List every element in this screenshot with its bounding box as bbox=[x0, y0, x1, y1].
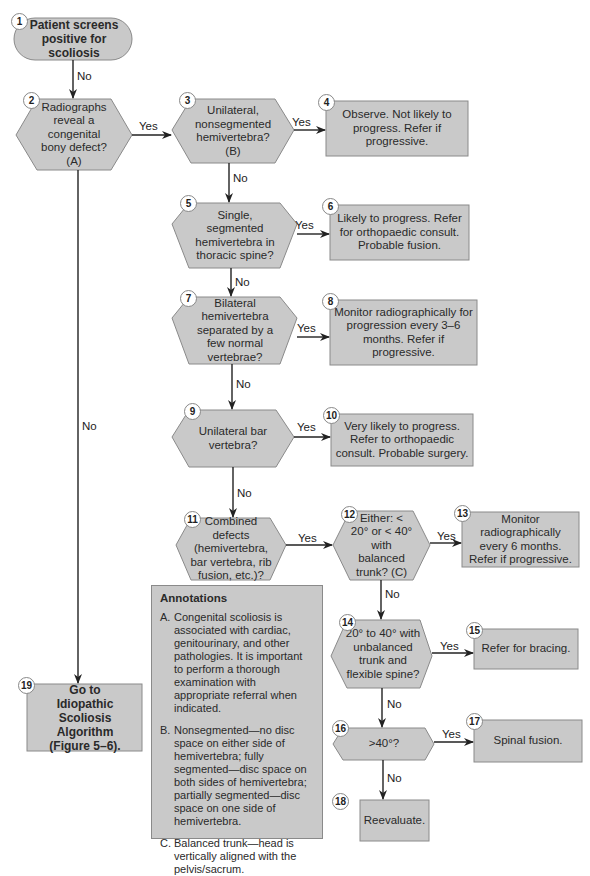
node-18-number: 18 bbox=[332, 793, 349, 810]
node-17-number: 17 bbox=[466, 713, 483, 730]
node-7-number: 7 bbox=[180, 290, 197, 307]
node-19-text: Go to Idiopathic Scoliosis Algorithm (Fi… bbox=[40, 684, 130, 751]
node-16-number: 16 bbox=[332, 720, 349, 737]
node-3-text: Unilateral, nonsegmented hemivertebra? (… bbox=[192, 99, 274, 163]
node-16-text: >40°? bbox=[343, 728, 425, 760]
edge-label-16-17: Yes bbox=[442, 728, 461, 740]
annotation-key: A. bbox=[160, 611, 174, 715]
node-12-number: 12 bbox=[341, 506, 358, 523]
node-5-number: 5 bbox=[180, 195, 197, 212]
node-10-text: Very likely to progress. Refer to orthop… bbox=[334, 414, 470, 466]
node-13-text: Monitor radiographically every 6 months.… bbox=[465, 512, 576, 567]
node-19-number: 19 bbox=[18, 677, 35, 694]
annotation-text: Balanced trunk—head is vertically aligne… bbox=[174, 837, 314, 876]
edge-label-2-3: Yes bbox=[139, 120, 158, 132]
edge-label-5-7: No bbox=[235, 276, 250, 288]
node-8-number: 8 bbox=[322, 293, 339, 310]
node-7-text: Bilateral hemivertebra separated by a fe… bbox=[188, 297, 282, 364]
node-2-number: 2 bbox=[23, 92, 40, 109]
node-5-text: Single, segmented hemivertebra in thorac… bbox=[190, 203, 280, 268]
node-15-number: 15 bbox=[466, 622, 483, 639]
edge-label-12-14: No bbox=[385, 588, 400, 600]
annotation-key: C. bbox=[160, 837, 174, 876]
node-9-text: Unilateral bar vertebra? bbox=[190, 410, 276, 467]
edge-label-7-8: Yes bbox=[297, 322, 316, 334]
node-17-text: Spinal fusion. bbox=[474, 720, 582, 762]
node-13-number: 13 bbox=[454, 505, 471, 522]
edge-label-11-12: Yes bbox=[298, 532, 317, 544]
edge-label-3-4: Yes bbox=[292, 116, 311, 128]
edge-label-14-15: Yes bbox=[440, 640, 459, 652]
annotation-a: A. Congenital scoliosis is associated wi… bbox=[160, 611, 314, 715]
node-14-text: 20° to 40° with unbalanced trunk and fle… bbox=[344, 620, 422, 688]
node-2-text: Radiographs reveal a congenital bony def… bbox=[40, 99, 108, 170]
annotation-key: B. bbox=[160, 724, 174, 828]
node-4-number: 4 bbox=[318, 94, 335, 111]
annotations-title: Annotations bbox=[160, 592, 314, 605]
node-6-text: Likely to progress. Refer for orthopaedi… bbox=[333, 205, 466, 260]
edge-label-2-19: No bbox=[82, 420, 97, 432]
node-9-number: 9 bbox=[184, 403, 201, 420]
edge-label-16-18: No bbox=[387, 772, 402, 784]
node-3-number: 3 bbox=[179, 92, 196, 109]
node-11-number: 11 bbox=[184, 511, 201, 528]
edge-label-9-11: No bbox=[237, 487, 252, 499]
annotation-c: C. Balanced trunk—head is vertically ali… bbox=[160, 837, 314, 876]
annotations-panel: Annotations A. Congenital scoliosis is a… bbox=[151, 585, 323, 839]
edge-label-7-9: No bbox=[236, 378, 251, 390]
annotation-text: Congenital scoliosis is associated with … bbox=[174, 611, 314, 715]
node-18-text: Reevaluate. bbox=[360, 800, 429, 841]
node-8-text: Monitor radiographically for progression… bbox=[333, 300, 474, 365]
edge-label-5-6: Yes bbox=[295, 219, 314, 231]
annotation-b: B. Nonsegmented—no disc space on either … bbox=[160, 724, 314, 828]
node-14-number: 14 bbox=[339, 614, 356, 631]
edge-label-9-10: Yes bbox=[297, 421, 316, 433]
node-15-text: Refer for bracing. bbox=[474, 629, 578, 669]
node-6-number: 6 bbox=[322, 198, 339, 215]
edge-label-3-5: No bbox=[233, 172, 248, 184]
node-1-number: 1 bbox=[11, 13, 28, 30]
edge-label-12-13: Yes bbox=[437, 530, 456, 542]
node-10-number: 10 bbox=[323, 407, 340, 424]
node-12-text: Either: < 20° or < 40° with balanced tru… bbox=[350, 511, 413, 580]
edge-label-14-16: No bbox=[387, 698, 402, 710]
node-1-text: Patient screens positive for scoliosis bbox=[18, 18, 130, 60]
node-4-text: Observe. Not likely to progress. Refer i… bbox=[333, 101, 461, 156]
edge-label-1-2: No bbox=[77, 70, 92, 82]
annotation-text: Nonsegmented—no disc space on either sid… bbox=[174, 724, 314, 828]
node-11-text: Combined defects (hemivertebra, bar vert… bbox=[188, 518, 274, 580]
